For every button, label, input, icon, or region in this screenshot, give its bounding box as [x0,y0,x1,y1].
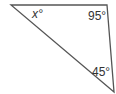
triangle-diagram: x° 95° 45° [0,0,116,94]
angle-label-x: x° [31,7,43,21]
angle-label-95: 95° [88,9,106,23]
angle-label-45: 45° [92,65,110,79]
triangle-svg: x° 95° 45° [0,0,116,94]
